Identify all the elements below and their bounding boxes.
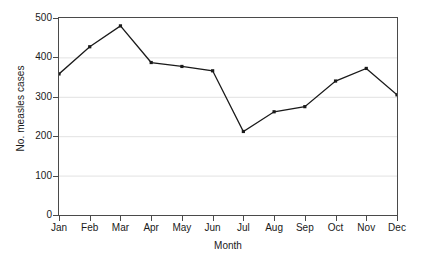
x-tick-mark — [90, 216, 91, 221]
x-tick-mark — [305, 216, 306, 221]
x-tick-mark — [336, 216, 337, 221]
x-tick-mark — [274, 216, 275, 221]
x-axis-ticks: JanFebMarAprMayJunJulAugSepOctNovDec — [0, 0, 425, 264]
x-tick-mark — [213, 216, 214, 221]
x-tick-mark — [59, 216, 60, 221]
x-axis-title: Month — [58, 240, 398, 251]
measles-cases-line-chart: No. measles cases 0100200300400500 JanFe… — [0, 0, 425, 264]
x-tick-mark — [366, 216, 367, 221]
x-tick-mark — [243, 216, 244, 221]
x-tick-mark — [151, 216, 152, 221]
x-tick-label: Dec — [377, 222, 417, 233]
x-tick-mark — [397, 216, 398, 221]
x-tick-mark — [182, 216, 183, 221]
x-tick-mark — [120, 216, 121, 221]
